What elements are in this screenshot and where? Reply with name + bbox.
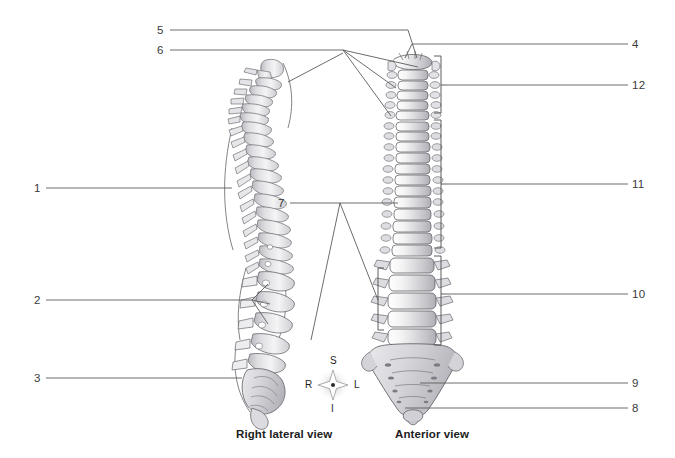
- lateral-cervical-vertebrae: [228, 59, 284, 125]
- compass-right-label: R: [305, 379, 312, 390]
- leader-line-7a: [311, 203, 340, 340]
- spinal-column-figure: 5 6 1 2 3 7 4 12 11 10 9 8 S I R L Right…: [0, 0, 675, 458]
- anterior-thoracic-vertebrae: [380, 122, 445, 256]
- anterior-cervical-vertebrae: [385, 70, 441, 120]
- callout-number-3: 3: [34, 372, 41, 384]
- leader-line-6c: [343, 50, 391, 116]
- orientation-compass: [316, 368, 350, 402]
- leader-line-7b: [340, 203, 378, 300]
- leader-line-5: [170, 30, 417, 58]
- callout-number-11: 11: [632, 178, 645, 190]
- callout-number-12: 12: [632, 79, 645, 91]
- leader-lines: [46, 30, 628, 408]
- compass-superior-label: S: [330, 355, 337, 366]
- anterior-coccyx: [403, 410, 422, 425]
- callout-number-8: 8: [632, 402, 639, 414]
- callout-number-1: 1: [34, 182, 41, 194]
- compass-left-label: L: [354, 379, 360, 390]
- caption-anterior-view: Anterior view: [395, 428, 469, 440]
- callout-number-6: 6: [157, 44, 164, 56]
- lateral-sacrum-coccyx: [242, 369, 285, 430]
- callout-number-9: 9: [632, 377, 639, 389]
- callout-number-5: 5: [157, 24, 164, 36]
- anterior-spine-illustration: [362, 51, 464, 425]
- caption-right-lateral-view: Right lateral view: [236, 428, 332, 440]
- compass-inferior-label: I: [331, 403, 334, 414]
- anterior-atlas-axis: [388, 51, 440, 71]
- leader-line-5-lateral: [288, 53, 343, 82]
- illustration-layer: [0, 0, 675, 458]
- anterior-sacrum: [362, 344, 464, 417]
- callout-number-4: 4: [632, 38, 639, 50]
- lateral-spine-illustration: [225, 59, 295, 429]
- callout-number-7: 7: [278, 197, 285, 209]
- callout-number-10: 10: [632, 288, 645, 300]
- callout-number-2: 2: [34, 294, 41, 306]
